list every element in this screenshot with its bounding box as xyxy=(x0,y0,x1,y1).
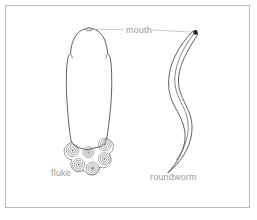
diagram-canvas: mouth fluke roundworm xyxy=(0,0,257,220)
label-mouth: mouth xyxy=(126,25,152,35)
label-fluke: fluke xyxy=(51,168,71,178)
label-roundworm: roundworm xyxy=(150,172,197,182)
fluke-sucker-3 xyxy=(86,162,99,175)
fluke-sucker-5 xyxy=(99,138,112,151)
roundworm-body-outline xyxy=(168,31,198,172)
fluke-mouth-opening xyxy=(86,28,93,31)
fluke-sucker-2 xyxy=(73,159,85,171)
figure-root: mouth fluke roundworm xyxy=(0,0,257,220)
fluke-body-outline xyxy=(66,28,111,150)
organism-roundworm xyxy=(168,30,198,173)
fluke-sucker-4 xyxy=(98,153,110,165)
organism-fluke xyxy=(64,28,113,175)
mouth-leader-line-right xyxy=(152,30,195,32)
fluke-sucker-1 xyxy=(66,144,79,157)
fluke-sucker-6 xyxy=(83,147,94,158)
